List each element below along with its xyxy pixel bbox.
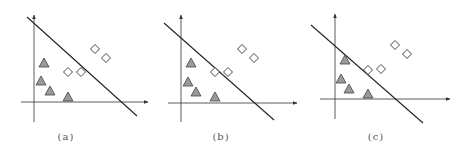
panel-c — [311, 14, 450, 123]
diamond-point — [64, 68, 73, 77]
diamond-point — [403, 50, 412, 59]
caption-b: (b) — [212, 131, 229, 142]
triangle-point — [210, 92, 220, 101]
diamond-point — [102, 54, 111, 63]
panel-a — [21, 15, 148, 122]
diamond-point — [211, 68, 220, 77]
triangle-point — [45, 86, 55, 95]
triangle-point — [363, 89, 373, 98]
panel-b — [164, 15, 297, 122]
triangle-point — [63, 92, 73, 101]
diamond-point — [364, 66, 373, 75]
diamond-point — [391, 41, 400, 50]
triangle-point — [191, 87, 201, 96]
caption-a: (a) — [58, 131, 75, 142]
triangle-point — [36, 76, 46, 85]
triangle-point — [39, 58, 49, 67]
diamond-point — [224, 68, 233, 77]
triangle-point — [183, 77, 193, 86]
diamond-point — [377, 65, 386, 74]
triangle-point — [340, 55, 350, 64]
diamond-point — [238, 45, 247, 54]
triangle-point — [336, 74, 346, 83]
diamond-point — [250, 54, 259, 63]
diamond-point — [91, 45, 100, 54]
triangle-point — [344, 84, 354, 93]
triangle-point — [186, 58, 196, 67]
caption-c: (c) — [368, 131, 384, 142]
